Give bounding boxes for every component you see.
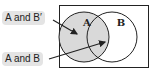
callout-a-and-b: A and B bbox=[2, 52, 43, 66]
set-b-label: B bbox=[117, 17, 125, 28]
callout-a-and-not-b: A and B′ bbox=[2, 11, 45, 25]
set-a-label: A bbox=[82, 17, 91, 28]
